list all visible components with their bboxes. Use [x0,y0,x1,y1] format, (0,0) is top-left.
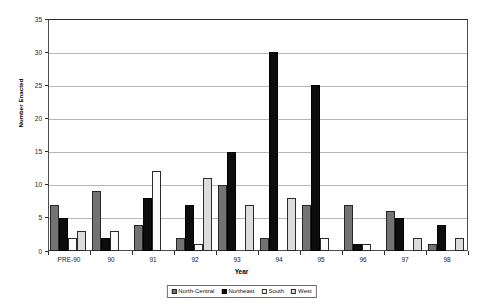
y-tick-mark [45,19,48,20]
x-tick-label: 96 [342,256,384,264]
x-tick-mark [90,251,91,255]
x-tick-label: 90 [90,256,132,264]
bar[interactable] [110,231,119,251]
bar-group [344,19,380,251]
bar-chart: Number Enacted Year North-CentralNorthea… [0,0,483,307]
x-tick-label: PRE-90 [48,256,90,264]
x-tick-label: 93 [216,256,258,264]
legend-item[interactable]: Northeast [221,288,254,295]
x-tick-mark [48,251,49,255]
bar-group [176,19,212,251]
legend-label: Northeast [228,288,254,295]
x-tick-mark [300,251,301,255]
x-tick-mark [216,251,217,255]
x-tick-label: 92 [174,256,216,264]
legend-item[interactable]: South [261,288,284,295]
bar-group [260,19,296,251]
x-axis-title: Year [0,268,483,275]
bar-group [302,19,338,251]
legend-swatch-icon [221,289,226,294]
bar[interactable] [134,225,143,252]
x-tick-label: 98 [426,256,468,264]
legend-label: South [268,288,284,295]
bar[interactable] [287,198,296,251]
bar[interactable] [269,52,278,251]
legend-item[interactable]: North-Central [171,288,214,295]
bar[interactable] [50,205,59,251]
y-tick-mark [45,118,48,119]
y-tick-mark [45,151,48,152]
bar[interactable] [152,171,161,251]
bar[interactable] [176,238,185,251]
bar[interactable] [68,238,77,251]
y-tick-label: 35 [18,16,42,23]
y-tick-mark [45,184,48,185]
bar[interactable] [437,225,446,252]
x-tick-label: 91 [132,256,174,264]
bar[interactable] [194,244,203,251]
x-tick-mark [258,251,259,255]
x-tick-label: 95 [300,256,342,264]
bar[interactable] [260,238,269,251]
bar[interactable] [353,244,362,251]
bar[interactable] [311,85,320,251]
x-tick-label: 94 [258,256,300,264]
y-tick-label: 5 [18,214,42,221]
legend-swatch-icon [261,289,266,294]
bar[interactable] [59,218,68,251]
bars-layer [48,19,468,251]
x-tick-mark [468,251,469,255]
bar-group [50,19,86,251]
y-tick-label: 20 [18,115,42,122]
bar[interactable] [455,238,464,251]
bar[interactable] [428,244,437,251]
y-tick-label: 25 [18,82,42,89]
bar[interactable] [320,238,329,251]
bar[interactable] [245,205,254,251]
legend-swatch-icon [171,289,176,294]
bar-group [134,19,170,251]
y-axis-title: Number Enacted [18,63,24,143]
bar[interactable] [203,178,212,251]
bar[interactable] [395,218,404,251]
bar[interactable] [77,231,86,251]
bar[interactable] [344,205,353,251]
x-tick-mark [426,251,427,255]
y-tick-label: 0 [18,248,42,255]
bar[interactable] [302,205,311,251]
bar[interactable] [218,185,227,251]
bar[interactable] [227,152,236,251]
y-tick-mark [45,52,48,53]
x-tick-mark [342,251,343,255]
bar-group [218,19,254,251]
bar[interactable] [101,238,110,251]
x-tick-label: 97 [384,256,426,264]
bar[interactable] [185,205,194,251]
y-tick-mark [45,85,48,86]
y-tick-label: 30 [18,49,42,56]
bar[interactable] [143,198,152,251]
bar-group [428,19,464,251]
x-tick-mark [384,251,385,255]
bar[interactable] [413,238,422,251]
legend-label: West [298,288,312,295]
chart-legend: North-CentralNortheastSouthWest [166,285,316,298]
bar-group [386,19,422,251]
y-tick-label: 10 [18,181,42,188]
y-tick-mark [45,217,48,218]
x-tick-mark [174,251,175,255]
legend-swatch-icon [291,289,296,294]
x-tick-mark [132,251,133,255]
bar[interactable] [92,191,101,251]
bar-group [92,19,128,251]
bar[interactable] [362,244,371,251]
legend-label: North-Central [178,288,214,295]
legend-item[interactable]: West [291,288,312,295]
y-tick-label: 15 [18,148,42,155]
bar[interactable] [386,211,395,251]
